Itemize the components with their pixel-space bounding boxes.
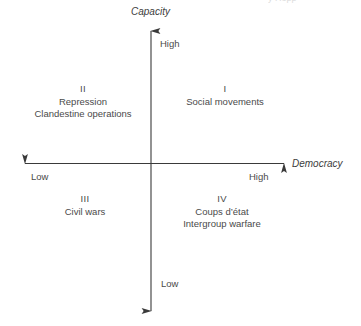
quadrant-4-line-1: Coups d’état bbox=[152, 206, 292, 219]
horizontal-axis-high-label: High bbox=[249, 171, 269, 184]
vertical-axis-title: Capacity bbox=[131, 6, 170, 19]
quadrant-2-line-1: Repression bbox=[13, 96, 153, 109]
vertical-axis-low-label: Low bbox=[161, 278, 178, 291]
horizontal-axis-low-label: Low bbox=[31, 171, 48, 184]
quadrant-3: III Civil wars bbox=[30, 193, 140, 218]
horizontal-axis-title: Democracy bbox=[292, 158, 343, 171]
quadrant-4-line-2: Intergroup warfare bbox=[152, 218, 292, 231]
quadrant-4: IV Coups d’état Intergroup warfare bbox=[152, 193, 292, 231]
quadrant-diagram: y Hopp Capacity Democracy High Low Low H… bbox=[0, 0, 361, 326]
quadrant-3-numeral: III bbox=[30, 193, 140, 206]
quadrant-2-numeral: II bbox=[13, 83, 153, 96]
quadrant-1-line-1: Social movements bbox=[155, 96, 295, 109]
quadrant-2: II Repression Clandestine operations bbox=[13, 83, 153, 121]
quadrant-4-numeral: IV bbox=[152, 193, 292, 206]
quadrant-2-line-2: Clandestine operations bbox=[13, 108, 153, 121]
quadrant-1-numeral: I bbox=[155, 83, 295, 96]
quadrant-1: I Social movements bbox=[155, 83, 295, 108]
vertical-axis-high-label: High bbox=[160, 38, 180, 51]
quadrant-3-line-1: Civil wars bbox=[30, 206, 140, 219]
